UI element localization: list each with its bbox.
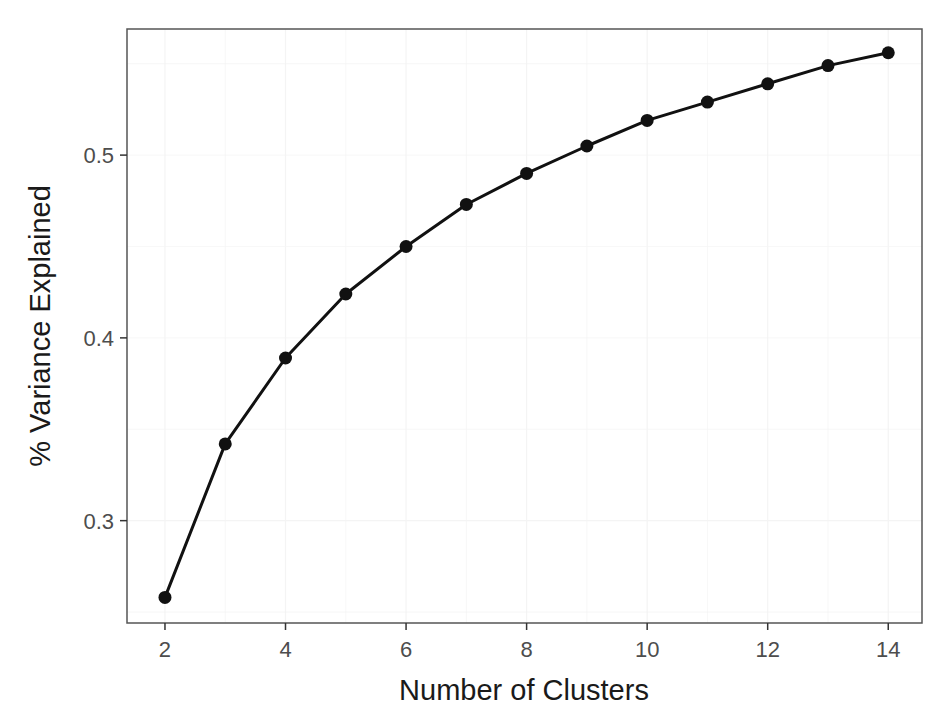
x-tick-label: 8 <box>520 637 532 662</box>
data-point <box>641 114 654 127</box>
y-axis-ticks: 0.30.40.5 <box>83 143 127 534</box>
x-tick-label: 2 <box>159 637 171 662</box>
data-point <box>580 139 593 152</box>
x-tick-label: 12 <box>755 637 779 662</box>
data-point <box>460 198 473 211</box>
y-tick-label: 0.3 <box>83 509 114 534</box>
y-tick-label: 0.4 <box>83 326 114 351</box>
plot-panel <box>127 29 922 623</box>
data-point <box>400 240 413 253</box>
data-point <box>821 59 834 72</box>
data-point <box>158 591 171 604</box>
data-point <box>339 288 352 301</box>
x-tick-label: 10 <box>635 637 659 662</box>
x-axis-title: Number of Clusters <box>399 674 649 706</box>
y-tick-label: 0.5 <box>83 143 114 168</box>
line-chart: 2468101214 0.30.40.5 Number of Clusters … <box>0 0 947 727</box>
y-axis-title: % Variance Explained <box>24 185 56 467</box>
x-axis-ticks: 2468101214 <box>159 623 901 662</box>
x-tick-label: 4 <box>279 637 291 662</box>
gridlines <box>127 29 922 623</box>
x-tick-label: 14 <box>876 637 900 662</box>
data-point <box>882 46 895 59</box>
data-point <box>761 77 774 90</box>
x-tick-label: 6 <box>400 637 412 662</box>
data-point <box>701 96 714 109</box>
data-point <box>279 351 292 364</box>
data-point <box>520 167 533 180</box>
data-point <box>219 437 232 450</box>
